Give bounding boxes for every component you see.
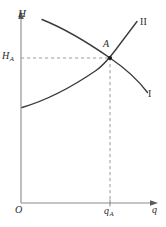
curve-two-label: II — [140, 17, 147, 27]
y-value-subscript: A — [10, 55, 14, 62]
curve-one-label: I — [148, 89, 152, 99]
figure-container: H HA O qA q A I II — [0, 0, 166, 227]
x-axis-label: q — [152, 205, 157, 215]
y-value-base: H — [2, 50, 9, 61]
y-axis-label: H — [18, 8, 26, 19]
x-value-subscript: A — [109, 210, 113, 217]
diagram-canvas — [0, 0, 166, 227]
curve-one-path — [42, 20, 148, 93]
intersection-point-label: A — [103, 39, 109, 49]
x-value-label-qa: qA — [104, 206, 114, 218]
intersection-point-dot — [108, 56, 112, 60]
y-value-label-ha: HA — [2, 51, 14, 63]
origin-label: O — [15, 205, 22, 215]
